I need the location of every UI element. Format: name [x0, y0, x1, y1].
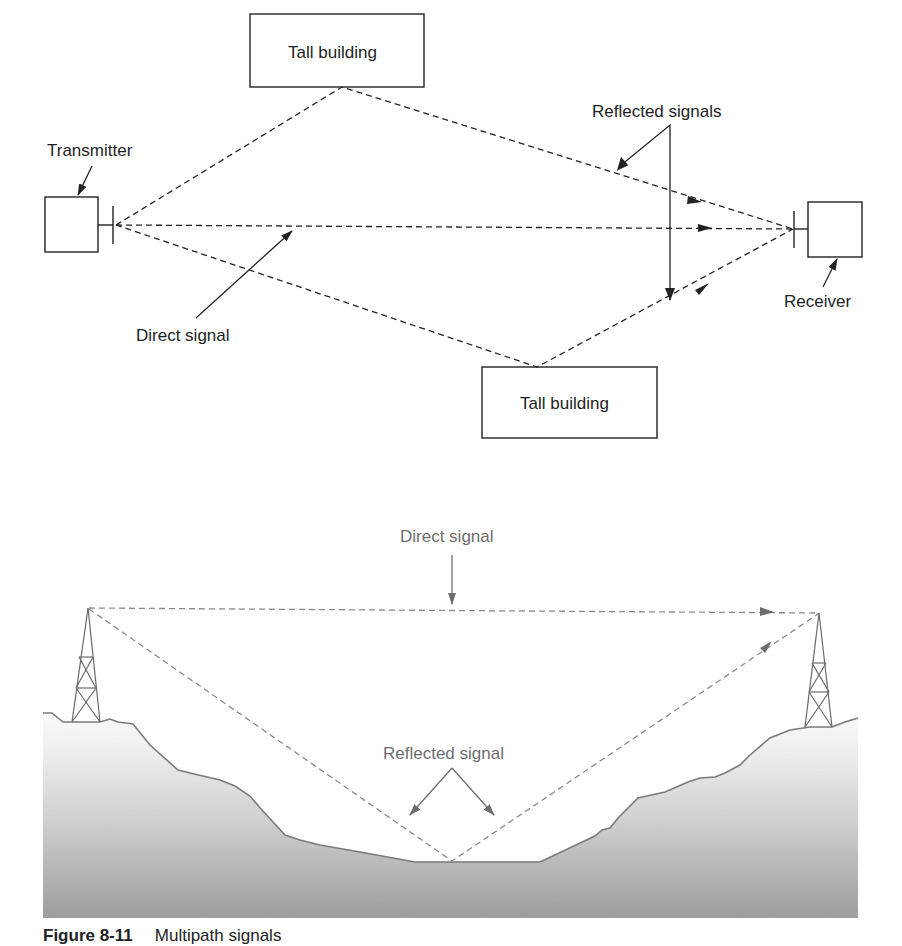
terrain-multipath-diagram — [43, 555, 858, 918]
terrain-reflected-pointer-left — [410, 768, 452, 815]
reflected-path-bottom — [116, 225, 793, 367]
arrowhead-reflected-bottom — [695, 283, 709, 295]
transmitter-icon — [45, 197, 113, 252]
urban-multipath-diagram — [45, 14, 862, 438]
tall-building-bottom-label: Tall building — [520, 395, 609, 412]
terrain-reflected-signal-label: Reflected signal — [383, 745, 504, 762]
direct-signal-path — [116, 225, 793, 229]
figure-number: Figure 8-11 — [43, 926, 133, 945]
receiver-icon — [794, 202, 862, 257]
arrowhead-reflected-top — [687, 196, 702, 204]
terrain-direct-arrowhead — [760, 607, 774, 616]
transmitter-label: Transmitter — [47, 142, 132, 159]
reflected-signals-pointer — [620, 125, 670, 300]
terrain-direct-signal-label: Direct signal — [400, 528, 494, 545]
transmitter-pointer — [78, 166, 92, 195]
terrain-reflected-pointer-right — [452, 768, 494, 815]
receiving-tower-icon — [805, 613, 832, 727]
receiver-pointer — [823, 259, 837, 287]
receiver-label: Receiver — [784, 293, 851, 310]
direct-signal-label: Direct signal — [136, 327, 230, 344]
transmitting-tower-icon — [72, 608, 100, 722]
figure-caption: Figure 8-11Multipath signals — [43, 926, 281, 946]
arrowhead-direct — [698, 224, 712, 232]
reflected-signals-label: Reflected signals — [592, 103, 721, 120]
tall-building-top-label: Tall building — [288, 44, 377, 61]
terrain-direct-path — [89, 608, 818, 613]
direct-signal-pointer — [196, 231, 292, 318]
caption-text: Multipath signals — [155, 926, 282, 945]
